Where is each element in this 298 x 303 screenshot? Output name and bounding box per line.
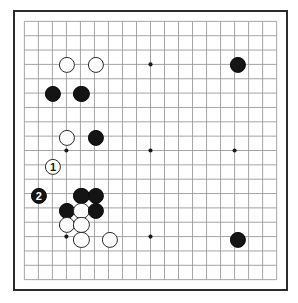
go-board[interactable]: 12 bbox=[13, 10, 288, 291]
star-point bbox=[148, 235, 152, 239]
board-grid bbox=[15, 12, 286, 289]
stone-move-number: 2 bbox=[36, 191, 42, 202]
star-point bbox=[64, 235, 68, 239]
stone-move-number: 1 bbox=[50, 162, 56, 173]
star-point bbox=[64, 148, 68, 152]
go-board-figure: 12 bbox=[0, 0, 298, 303]
star-point bbox=[148, 148, 152, 152]
star-point bbox=[148, 62, 152, 66]
star-point bbox=[233, 148, 237, 152]
